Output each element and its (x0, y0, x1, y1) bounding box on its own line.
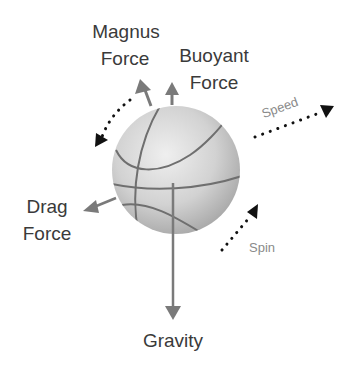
gravity-label: Gravity (143, 330, 204, 351)
basketball (112, 106, 242, 240)
buoyant-label-line1: Buoyant (179, 45, 249, 66)
buoyant-force-arrow (165, 82, 179, 105)
magnus-force-arrow (135, 79, 151, 106)
buoyant-label-line2: Force (190, 72, 239, 93)
magnus-label-line1: Magnus (92, 21, 160, 42)
forces-diagram: Magnus Force Buoyant Force Drag Force Gr… (0, 0, 351, 366)
drag-label-line2: Force (23, 223, 72, 244)
speed-label: Speed (260, 94, 300, 121)
spin-label: Spin (249, 240, 275, 255)
magnus-label-line2: Force (101, 48, 150, 69)
drag-label-line1: Drag (26, 196, 67, 217)
drag-force-arrow (83, 198, 116, 213)
